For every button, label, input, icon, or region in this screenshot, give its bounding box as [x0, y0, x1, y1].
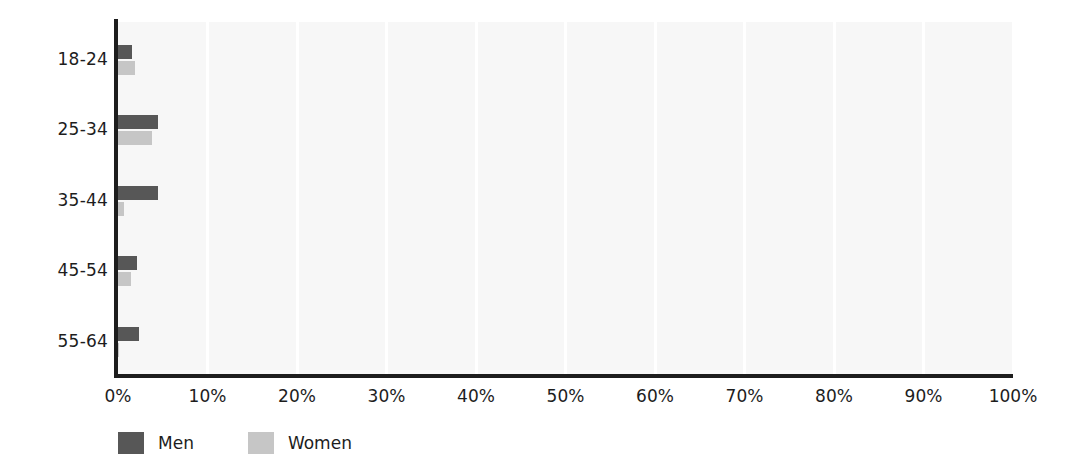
x-tick-label-0%: 0%: [105, 388, 132, 405]
y-tick-label-25-34: 25-34: [8, 121, 108, 138]
bar-chart: 18-2425-3435-4445-5455-64 0%10%20%30%40%…: [0, 0, 1079, 474]
category-group-55-64: [118, 327, 1013, 357]
x-tick-label-40%: 40%: [457, 388, 495, 405]
category-group-18-24: [118, 45, 1013, 75]
bar-women-18-24: [118, 61, 135, 75]
x-axis-tick-labels: 0%10%20%30%40%50%60%70%80%90%100%: [118, 388, 1013, 414]
bar-men-55-64: [118, 327, 139, 341]
y-tick-label-35-44: 35-44: [8, 192, 108, 209]
legend-swatch-men: [118, 432, 144, 454]
legend-label-women: Women: [288, 435, 352, 452]
x-tick-label-30%: 30%: [368, 388, 406, 405]
bar-men-25-34: [118, 115, 158, 129]
bar-women-25-34: [118, 131, 152, 145]
category-group-25-34: [118, 115, 1013, 145]
bar-women-45-54: [118, 272, 131, 286]
bar-women-35-44: [118, 202, 124, 216]
x-tick-label-90%: 90%: [905, 388, 943, 405]
legend-swatch-women: [248, 432, 274, 454]
y-axis-tick-labels: 18-2425-3435-4445-5455-64: [0, 22, 108, 375]
legend-item-women[interactable]: Women: [248, 432, 352, 454]
x-tick-label-70%: 70%: [726, 388, 764, 405]
legend-label-men: Men: [158, 435, 194, 452]
category-group-45-54: [118, 256, 1013, 286]
bar-men-45-54: [118, 256, 137, 270]
legend-item-men[interactable]: Men: [118, 432, 194, 454]
x-tick-label-20%: 20%: [278, 388, 316, 405]
category-group-35-44: [118, 186, 1013, 216]
x-tick-label-50%: 50%: [547, 388, 585, 405]
y-axis-line: [114, 19, 118, 378]
bar-men-35-44: [118, 186, 158, 200]
x-tick-label-10%: 10%: [189, 388, 227, 405]
x-axis-line: [114, 374, 1013, 378]
bar-women-55-64: [118, 343, 119, 357]
chart-legend: MenWomen: [118, 430, 406, 456]
y-tick-label-45-54: 45-54: [8, 262, 108, 279]
x-tick-label-80%: 80%: [815, 388, 853, 405]
plot-area: [118, 22, 1013, 375]
bar-men-18-24: [118, 45, 132, 59]
x-tick-label-100%: 100%: [989, 388, 1038, 405]
y-tick-label-18-24: 18-24: [8, 51, 108, 68]
x-tick-label-60%: 60%: [636, 388, 674, 405]
y-tick-label-55-64: 55-64: [8, 333, 108, 350]
